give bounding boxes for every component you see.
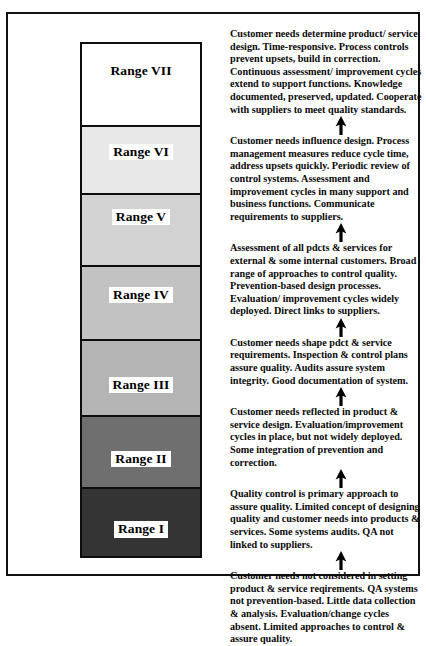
arrow-row-6-to-5: [230, 223, 422, 242]
description-level-3: Customer needs reflected in product & se…: [230, 406, 422, 469]
range-label-5: Range V: [112, 209, 170, 226]
description-level-1: Customer needs not considered in setting…: [230, 570, 422, 646]
range-band-4: Range IV: [80, 265, 202, 339]
range-label-3: Range III: [109, 377, 174, 394]
up-arrow-icon: [334, 116, 348, 135]
up-arrow-icon: [334, 223, 348, 242]
up-arrow-icon: [334, 387, 348, 406]
description-level-2: Quality control is primary approach to a…: [230, 488, 422, 551]
range-band-6: Range VI: [80, 125, 202, 193]
range-label-4: Range IV: [109, 287, 173, 304]
range-band-7: Range VII: [80, 42, 202, 125]
maturity-ladder: Range VII Range VI Range V Range IV Rang…: [80, 42, 202, 558]
description-level-4: Customer needs shape pdct & service requ…: [230, 337, 422, 387]
description-column: Customer needs determine product/ servic…: [230, 28, 422, 576]
up-arrow-icon: [334, 469, 348, 488]
range-label-1: Range I: [114, 521, 168, 538]
description-level-6: Customer needs influence design. Process…: [230, 135, 422, 223]
range-label-6: Range VI: [109, 144, 173, 161]
arrow-row-3-to-2: [230, 469, 422, 488]
range-band-1: Range I: [80, 487, 202, 558]
range-band-3: Range III: [80, 339, 202, 415]
diagram-frame: Range VII Range VI Range V Range IV Rang…: [6, 12, 420, 576]
range-band-2: Range II: [80, 415, 202, 487]
arrow-row-2-to-1: [230, 551, 422, 570]
arrow-row-7-to-6: [230, 116, 422, 135]
up-arrow-icon: [334, 551, 348, 570]
range-label-7: Range VII: [106, 63, 175, 80]
range-band-5: Range V: [80, 193, 202, 265]
arrow-row-4-to-3: [230, 387, 422, 406]
arrow-row-5-to-4: [230, 318, 422, 337]
description-level-7: Customer needs determine product/ servic…: [230, 28, 422, 116]
description-level-5: Assessment of all pdcts & services for e…: [230, 242, 422, 318]
range-label-2: Range II: [111, 451, 170, 468]
up-arrow-icon: [334, 318, 348, 337]
